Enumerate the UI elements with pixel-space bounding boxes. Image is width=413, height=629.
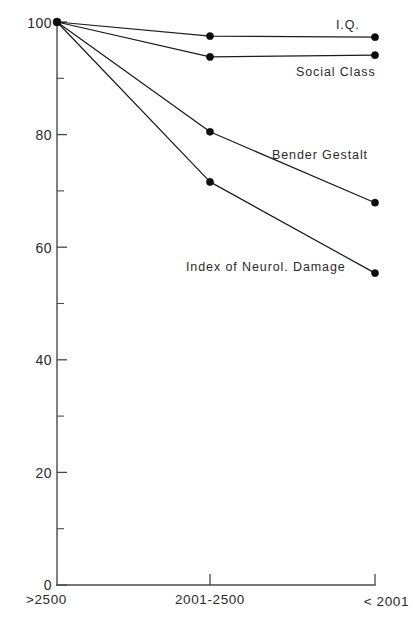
series-label-index-neurol-damage: Index of Neurol. Damage bbox=[186, 260, 346, 274]
line-chart-svg: 100 80 60 40 20 0 >2500 2001-2500 < 2001 bbox=[0, 0, 413, 629]
y-tick-label-0: 0 bbox=[44, 577, 52, 593]
x-tick-labels: >2500 2001-2500 < 2001 bbox=[26, 592, 409, 609]
series-label-iq: I.Q. bbox=[336, 18, 360, 32]
data-point bbox=[371, 34, 378, 41]
x-tick-label-gt2500: >2500 bbox=[26, 592, 67, 607]
y-tick-label-80: 80 bbox=[35, 127, 52, 143]
series-line-bender-gestalt bbox=[57, 22, 375, 203]
y-tick-label-40: 40 bbox=[35, 352, 52, 368]
x-tick-label-2001-2500: 2001-2500 bbox=[175, 592, 245, 607]
x-ticks bbox=[210, 574, 375, 585]
axes-group bbox=[57, 22, 375, 585]
y-tick-labels: 100 80 60 40 20 0 bbox=[27, 15, 52, 593]
data-point bbox=[53, 18, 61, 26]
y-tick-label-20: 20 bbox=[35, 465, 52, 481]
data-point bbox=[206, 178, 213, 185]
data-point bbox=[371, 52, 378, 59]
data-point bbox=[371, 270, 378, 277]
data-point bbox=[206, 32, 213, 39]
y-tick-label-100: 100 bbox=[27, 15, 52, 31]
data-point bbox=[206, 53, 213, 60]
scan-artifact-top bbox=[0, 0, 413, 9]
data-point bbox=[371, 199, 378, 206]
series-line-iq bbox=[57, 22, 375, 37]
series-line-social-class bbox=[57, 22, 375, 57]
data-point bbox=[206, 128, 213, 135]
y-tick-label-60: 60 bbox=[35, 240, 52, 256]
y-minor-ticks bbox=[57, 78, 64, 528]
chart-figure: 100 80 60 40 20 0 >2500 2001-2500 < 2001 bbox=[0, 0, 413, 629]
series-label-social-class: Social Class bbox=[296, 65, 376, 79]
series-label-bender-gestalt: Bender Gestalt bbox=[272, 148, 368, 162]
x-tick-label-lt2001: < 2001 bbox=[364, 594, 409, 609]
